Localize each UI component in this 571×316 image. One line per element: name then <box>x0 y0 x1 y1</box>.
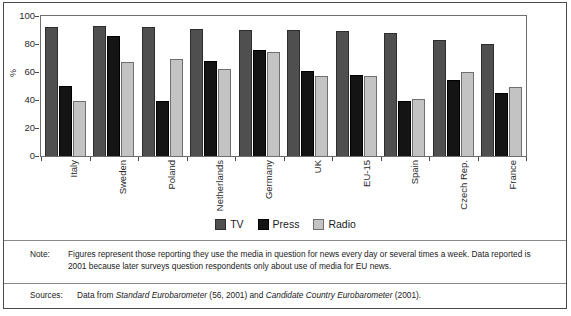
sources-italic-2: Candidate Country Eurobarometer <box>266 290 393 300</box>
bar-group <box>478 16 527 156</box>
x-label-cell: Spain <box>381 158 430 214</box>
bar-group <box>41 16 90 156</box>
bar-tv <box>45 27 58 156</box>
x-tick-label: Italy <box>68 160 79 177</box>
bar-group <box>429 16 478 156</box>
y-tick-label: 20 <box>7 123 35 133</box>
bar-group <box>381 16 430 156</box>
bar-radio <box>73 101 86 156</box>
x-label-cell: EU-15 <box>332 158 381 214</box>
divider-above-sources <box>4 283 566 284</box>
x-label-cell: Czech Rep. <box>430 158 479 214</box>
y-tick-mark <box>35 44 39 45</box>
x-tick-label: Sweden <box>117 160 128 194</box>
bar-press <box>107 36 120 156</box>
x-label-cell: UK <box>284 158 333 214</box>
y-tick-label: 100 <box>7 11 35 21</box>
y-tick-mark <box>35 156 39 157</box>
x-tick-label: France <box>507 160 518 190</box>
bar-press <box>156 101 169 156</box>
legend-swatch-tv <box>215 219 226 230</box>
x-tick-label: Netherlands <box>214 160 225 211</box>
bar-press <box>398 101 411 156</box>
x-axis-labels: ItalySwedenPolandNetherlandsGermanyUKEU-… <box>40 158 527 214</box>
legend-item-radio: Radio <box>313 218 355 230</box>
bar-radio <box>315 76 328 156</box>
bar-radio <box>509 87 522 156</box>
note-label: Note: <box>30 249 68 273</box>
legend-label: TV <box>230 218 243 230</box>
sources-italic-1: Standard Eurobarometer <box>116 290 207 300</box>
bar-group <box>138 16 187 156</box>
y-tick-label: 0 <box>7 151 35 161</box>
bar-tv <box>336 31 349 156</box>
bar-radio <box>218 69 231 156</box>
bar-radio <box>364 76 377 156</box>
y-tick-label: 80 <box>7 39 35 49</box>
x-tick-label: EU-15 <box>361 160 372 187</box>
bar-tv <box>287 30 300 156</box>
note-text: Figures represent those reporting they u… <box>68 249 550 273</box>
y-tick-label: 60 <box>7 67 35 77</box>
legend-item-press: Press <box>258 218 300 230</box>
legend-label: Press <box>273 218 300 230</box>
bar-press <box>59 86 72 156</box>
x-label-cell: Germany <box>235 158 284 214</box>
note-block: Note: Figures represent those reporting … <box>30 249 550 273</box>
bar-group <box>90 16 139 156</box>
bar-radio <box>121 62 134 156</box>
bar-group <box>235 16 284 156</box>
y-axis-ticks: 100806040200 <box>5 15 35 157</box>
x-tick-label: Spain <box>409 160 420 184</box>
x-tick-label: Czech Rep. <box>458 160 469 210</box>
bar-tv <box>433 40 446 156</box>
bar-press <box>301 71 314 156</box>
x-label-cell: France <box>478 158 527 214</box>
bar-tv <box>239 30 252 156</box>
sources-suffix: (2001). <box>392 290 421 300</box>
bar-group <box>332 16 381 156</box>
y-tick-mark <box>35 128 39 129</box>
bar-radio <box>267 52 280 156</box>
chart-figure: % 100806040200 ItalySwedenPolandNetherla… <box>0 0 571 316</box>
legend-swatch-radio <box>313 219 324 230</box>
y-tick-mark <box>35 100 39 101</box>
bar-radio <box>461 72 474 156</box>
bar-press <box>204 61 217 156</box>
plot-area <box>40 15 527 157</box>
y-tick-mark <box>35 72 39 73</box>
sources-prefix: Data from <box>77 290 116 300</box>
sources-text: Data from Standard Eurobarometer (56, 20… <box>77 290 550 302</box>
x-tick-label: Poland <box>166 160 177 190</box>
y-tick-mark <box>35 16 39 17</box>
bar-tv <box>481 44 494 156</box>
sources-label: Sources: <box>30 290 77 302</box>
bar-press <box>495 93 508 156</box>
bar-radio <box>412 99 425 156</box>
x-label-cell: Netherlands <box>186 158 235 214</box>
x-label-cell: Italy <box>40 158 89 214</box>
divider-above-note <box>4 240 566 241</box>
bar-tv <box>93 26 106 156</box>
sources-block: Sources: Data from Standard Eurobaromete… <box>30 290 550 302</box>
y-tick-label: 40 <box>7 95 35 105</box>
x-label-cell: Sweden <box>89 158 138 214</box>
legend-label: Radio <box>328 218 355 230</box>
bar-press <box>253 50 266 156</box>
x-label-cell: Poland <box>137 158 186 214</box>
bar-groups <box>41 16 526 156</box>
legend-item-tv: TV <box>215 218 243 230</box>
chart-legend: TVPressRadio <box>0 218 571 230</box>
sources-mid: (56, 2001) and <box>207 290 266 300</box>
bar-radio <box>170 59 183 156</box>
x-tick-label: UK <box>312 160 323 173</box>
legend-swatch-press <box>258 219 269 230</box>
bar-group <box>284 16 333 156</box>
x-tick-label: Germany <box>263 160 274 199</box>
bar-group <box>187 16 236 156</box>
bar-press <box>447 80 460 156</box>
bar-tv <box>190 29 203 156</box>
bar-press <box>350 75 363 156</box>
bar-tv <box>384 33 397 156</box>
bar-tv <box>142 27 155 156</box>
